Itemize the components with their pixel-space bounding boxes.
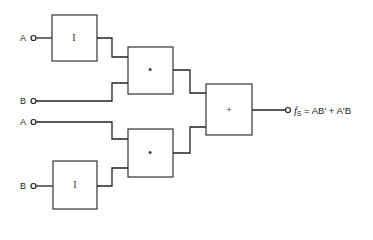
input-terminal-a2 (31, 120, 36, 125)
or-symbol: + (219, 105, 239, 115)
input-label-a1: A (20, 33, 26, 43)
wire-inv1-and1 (97, 38, 128, 57)
output-expression: fS = AB' + A'B (294, 104, 351, 120)
wire-b1-and1 (36, 83, 128, 101)
wire-a2-and2 (36, 122, 128, 139)
and-symbol-2: • (140, 148, 160, 158)
inverter-symbol-2: I (65, 180, 85, 190)
wire-and2-or (173, 127, 206, 153)
input-terminal-b1 (31, 99, 36, 104)
output-terminal (286, 108, 291, 113)
inverter-symbol-1: I (64, 33, 84, 43)
output-subscript: S (297, 110, 301, 117)
wire-and1-or (173, 70, 206, 93)
input-label-b2: B (20, 181, 26, 191)
input-label-b1: B (20, 96, 26, 106)
input-terminal-a1 (31, 36, 36, 41)
wire-inv2-and2 (97, 168, 128, 186)
and-symbol-1: • (140, 65, 160, 75)
input-label-a2: A (20, 117, 26, 127)
input-terminal-b2 (31, 184, 36, 189)
output-formula: = AB' + A'B (304, 105, 351, 116)
